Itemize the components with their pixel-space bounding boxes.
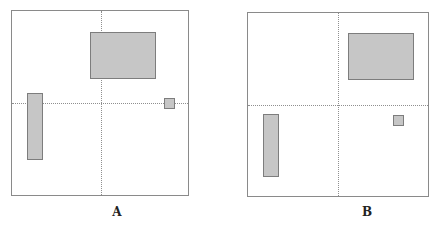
small-square: [164, 98, 175, 109]
panel-b: [247, 12, 429, 197]
horizontal-divider: [248, 105, 428, 106]
small-square: [393, 115, 404, 126]
panel-a: [11, 10, 189, 196]
panel-label-b: B: [362, 205, 372, 219]
panel-label-a: A: [112, 205, 121, 219]
large-rectangle: [348, 33, 414, 80]
tall-rectangle: [263, 114, 279, 177]
large-rectangle: [90, 32, 156, 79]
tall-rectangle: [27, 93, 43, 160]
